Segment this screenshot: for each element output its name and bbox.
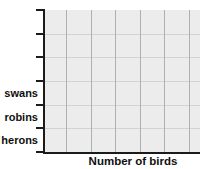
y-axis-tick xyxy=(36,127,44,129)
x-axis-title: Number of birds xyxy=(60,155,200,167)
v-gridline xyxy=(91,10,92,152)
v-gridline xyxy=(140,10,141,152)
h-gridline xyxy=(45,105,200,106)
y-axis-tick xyxy=(36,151,44,153)
y-axis-tick xyxy=(36,9,44,11)
h-gridline xyxy=(45,128,200,129)
v-gridline xyxy=(66,10,67,152)
y-axis-tick xyxy=(36,56,44,58)
h-gridline xyxy=(45,81,200,82)
v-gridline xyxy=(115,10,116,152)
h-gridline xyxy=(45,57,200,58)
x-axis-line xyxy=(43,152,200,154)
v-gridline xyxy=(164,10,165,152)
bird-count-chart: swans robins herons Number of birds xyxy=(0,0,200,169)
h-gridline xyxy=(45,34,200,35)
category-label-swans: swans xyxy=(4,87,38,99)
y-axis-tick xyxy=(36,80,44,82)
category-label-herons: herons xyxy=(1,134,38,146)
v-gridline xyxy=(189,10,190,152)
y-axis-tick xyxy=(36,104,44,106)
plot-area xyxy=(45,10,200,152)
y-axis-tick xyxy=(36,33,44,35)
category-label-robins: robins xyxy=(4,111,38,123)
